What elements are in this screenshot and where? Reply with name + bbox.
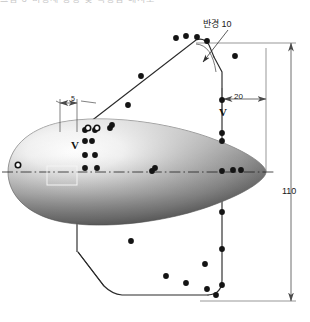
measurement-point bbox=[213, 292, 219, 298]
label-offset-5: 5 bbox=[71, 95, 75, 102]
measurement-point bbox=[183, 33, 189, 39]
measurement-point bbox=[152, 165, 158, 171]
radius-leader bbox=[196, 30, 228, 72]
measurement-point bbox=[219, 168, 225, 174]
measurement-point bbox=[125, 102, 131, 108]
measurement-point-hollow bbox=[15, 162, 20, 167]
measurement-point bbox=[232, 53, 238, 59]
label-height-110: 110 bbox=[282, 186, 296, 196]
measurement-point bbox=[128, 238, 134, 244]
measurement-point bbox=[163, 273, 169, 279]
measurement-point-hollow bbox=[94, 125, 99, 130]
marker-v-right: V bbox=[219, 106, 227, 118]
measurement-point bbox=[204, 38, 210, 44]
measurement-point bbox=[219, 138, 225, 144]
measurement-point bbox=[82, 138, 88, 144]
measurement-point bbox=[92, 152, 98, 158]
measurement-point bbox=[183, 280, 189, 286]
measurement-point bbox=[94, 165, 100, 171]
label-radius: 반경 10 bbox=[203, 17, 232, 30]
measurement-point bbox=[109, 122, 115, 128]
measurement-point bbox=[219, 246, 225, 252]
drawing-canvas: 그림 3 비행체 형상 및 측정점 배치도 bbox=[0, 0, 310, 322]
measurement-point-hollow bbox=[85, 125, 90, 130]
measurement-point bbox=[219, 130, 225, 136]
measurement-point bbox=[89, 138, 95, 144]
measurement-point bbox=[219, 282, 225, 288]
measurement-point bbox=[219, 97, 225, 103]
measurement-point bbox=[219, 209, 225, 215]
measurement-point bbox=[230, 167, 236, 173]
label-width-20: 20 bbox=[234, 92, 243, 101]
measurement-point bbox=[204, 286, 210, 292]
measurement-point bbox=[238, 167, 244, 173]
measurement-point bbox=[138, 73, 144, 79]
measurement-point bbox=[194, 34, 200, 40]
marker-v-left: V bbox=[71, 139, 79, 151]
measurement-point bbox=[173, 35, 179, 41]
measurement-point bbox=[82, 152, 88, 158]
measurement-point bbox=[82, 165, 88, 171]
measurement-point bbox=[202, 261, 208, 267]
technical-drawing-svg bbox=[0, 0, 310, 322]
